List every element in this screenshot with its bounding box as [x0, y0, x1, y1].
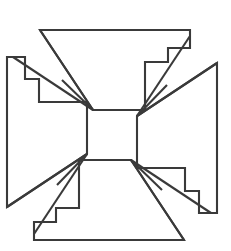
pinwheel-figure: Stepped pinwheel cross Black line-art ge…: [0, 0, 231, 251]
